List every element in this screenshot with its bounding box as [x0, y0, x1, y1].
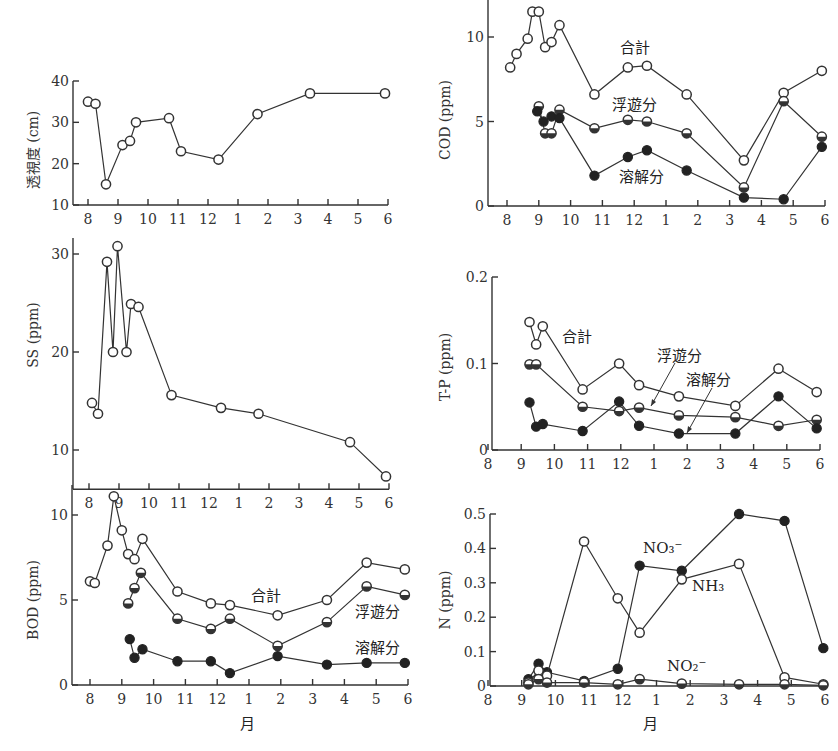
filled-circle-marker — [533, 107, 542, 116]
x-tick-label: 3 — [719, 692, 728, 708]
x-tick-label: 2 — [693, 212, 702, 228]
x-tick-label: 12 — [614, 692, 632, 708]
x-tick-label: 1 — [235, 495, 244, 511]
x-tick-label: 6 — [821, 212, 830, 228]
open-circle-marker — [167, 391, 176, 400]
open-circle-marker — [812, 387, 821, 396]
open-circle-marker — [506, 63, 515, 72]
x-tick-label: 4 — [324, 211, 333, 227]
y-tick-label: 10 — [50, 507, 68, 523]
filled-circle-marker — [774, 392, 783, 401]
x-tick-label: 12 — [199, 211, 217, 227]
x-tick-label: 12 — [625, 212, 643, 228]
y-axis-label: N (ppm) — [437, 571, 453, 630]
x-tick-label: 8 — [484, 456, 493, 472]
open-circle-marker — [623, 63, 632, 72]
open-circle-marker — [642, 61, 651, 70]
filled-circle-marker — [682, 166, 691, 175]
x-tick-label: 2 — [276, 691, 285, 707]
y-tick-label: 0.1 — [464, 644, 486, 660]
open-circle-marker — [322, 595, 331, 604]
open-circle-marker — [206, 599, 215, 608]
x-tick-label: 9 — [117, 691, 126, 707]
n-no2-label: NO₂⁻ — [667, 657, 706, 675]
x-tick-label: 8 — [84, 211, 93, 227]
open-circle-marker — [682, 90, 691, 99]
filled-circle-marker — [206, 657, 215, 666]
filled-circle-marker — [130, 653, 139, 662]
open-circle-marker — [176, 147, 185, 156]
filled-circle-marker — [173, 657, 182, 666]
x-tick-label: 11 — [170, 495, 188, 511]
filled-circle-marker — [635, 561, 644, 570]
open-circle-marker — [579, 537, 588, 546]
x-tick-label: 9 — [517, 456, 526, 472]
open-circle-marker — [739, 156, 748, 165]
open-circle-marker — [87, 398, 96, 407]
open-circle-marker — [774, 364, 783, 373]
filled-circle-marker — [817, 142, 826, 151]
x-tick-label: 3 — [308, 691, 317, 707]
filled-circle-marker — [615, 397, 624, 406]
y-tick-label: 10 — [51, 442, 69, 458]
x-tick-label: 12 — [208, 691, 226, 707]
open-circle-marker — [253, 109, 262, 118]
x-tick-label: 2 — [264, 211, 273, 227]
y-tick-label: 30 — [51, 246, 69, 262]
open-circle-marker — [615, 359, 624, 368]
x-tick-label: 5 — [354, 211, 363, 227]
y-tick-label: 0.4 — [464, 540, 486, 556]
open-circle-marker — [305, 89, 314, 98]
y-axis-label: T-P (ppm) — [437, 333, 453, 401]
x-axis-label-right: 月 — [643, 712, 658, 733]
open-circle-marker — [381, 472, 390, 481]
open-circle-marker — [122, 347, 131, 356]
x-tick-label: 1 — [650, 456, 659, 472]
bod-suspended-label: 浮遊分 — [355, 600, 400, 621]
open-circle-marker — [523, 34, 532, 43]
x-tick-label: 9 — [534, 212, 543, 228]
filled-circle-marker — [819, 644, 828, 653]
open-circle-marker — [109, 492, 118, 501]
series-line — [530, 396, 817, 433]
filled-circle-marker — [590, 171, 599, 180]
bod-chart: 891011121234560510BOD (ppm) — [25, 485, 413, 707]
x-tick-label: 5 — [789, 212, 798, 228]
x-tick-label: 9 — [517, 692, 526, 708]
x-tick-label: 6 — [821, 692, 830, 708]
filled-circle-marker — [623, 152, 632, 161]
filled-circle-marker — [780, 516, 789, 525]
open-circle-marker — [555, 21, 564, 30]
y-tick-label: 0 — [479, 442, 488, 458]
filled-circle-marker — [578, 426, 587, 435]
open-circle-marker — [532, 340, 541, 349]
filled-circle-marker — [812, 424, 821, 433]
y-tick-label: 0.5 — [464, 506, 486, 522]
open-circle-marker — [117, 526, 126, 535]
open-circle-marker — [214, 155, 223, 164]
open-circle-marker — [225, 601, 234, 610]
y-tick-label: 5 — [475, 114, 484, 130]
open-circle-marker — [101, 180, 110, 189]
x-tick-label: 5 — [782, 456, 791, 472]
y-axis-label: BOD (ppm) — [25, 560, 41, 640]
x-tick-label: 1 — [245, 691, 254, 707]
y-tick-label: 0.2 — [464, 609, 486, 625]
y-tick-label: 20 — [51, 156, 69, 172]
filled-circle-marker — [642, 146, 651, 155]
x-tick-label: 8 — [85, 495, 94, 511]
y-tick-label: 40 — [51, 73, 69, 89]
x-tick-label: 3 — [716, 456, 725, 472]
filled-circle-marker — [322, 660, 331, 669]
open-circle-marker — [734, 559, 743, 568]
x-tick-label: 5 — [355, 495, 364, 511]
series-line — [510, 12, 822, 161]
filled-circle-marker — [731, 429, 740, 438]
x-tick-label: 6 — [385, 495, 394, 511]
filled-circle-marker — [677, 566, 686, 575]
open-circle-marker — [91, 99, 100, 108]
tp-dissolved-label: 溶解分 — [686, 368, 731, 389]
x-tick-label: 4 — [325, 495, 334, 511]
x-tick-label: 3 — [294, 211, 303, 227]
y-axis-label: COD (ppm) — [437, 80, 453, 160]
